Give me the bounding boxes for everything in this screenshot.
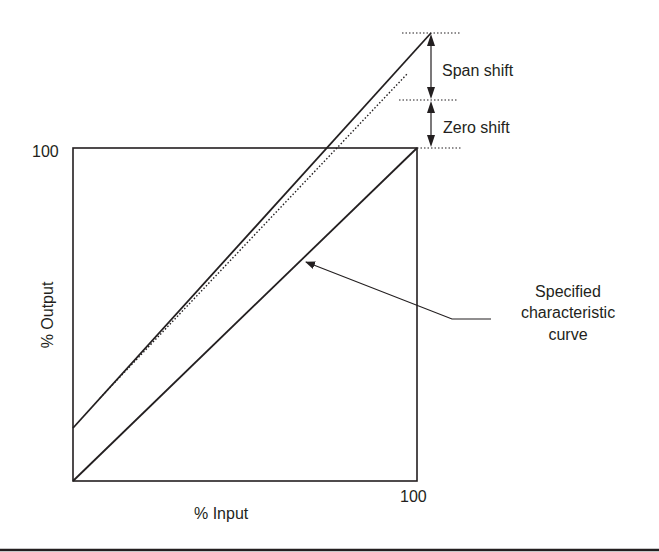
zero-shift-arrowhead-down <box>427 135 435 147</box>
x-max-label: 100 <box>400 488 427 505</box>
span-shift-arrowhead-down <box>427 87 435 99</box>
zero-shift-line <box>100 73 408 398</box>
span-zero-shift-diagram: Span shift Zero shift Specified characte… <box>0 0 659 552</box>
zero-shift-label: Zero shift <box>443 119 510 136</box>
callout-label-line1: Specified <box>535 283 601 300</box>
y-axis-label: % Output <box>39 281 56 348</box>
x-axis-label: % Input <box>194 505 249 522</box>
zero-shift-arrowhead-up <box>427 101 435 113</box>
span-shift-line <box>73 33 431 428</box>
callout-label-line3: curve <box>548 326 587 343</box>
callout-label-line2: characteristic <box>521 304 615 321</box>
specified-characteristic-line <box>73 148 417 481</box>
y-max-label: 100 <box>32 143 59 160</box>
span-shift-label: Span shift <box>442 62 514 79</box>
callout-leader <box>306 262 491 319</box>
